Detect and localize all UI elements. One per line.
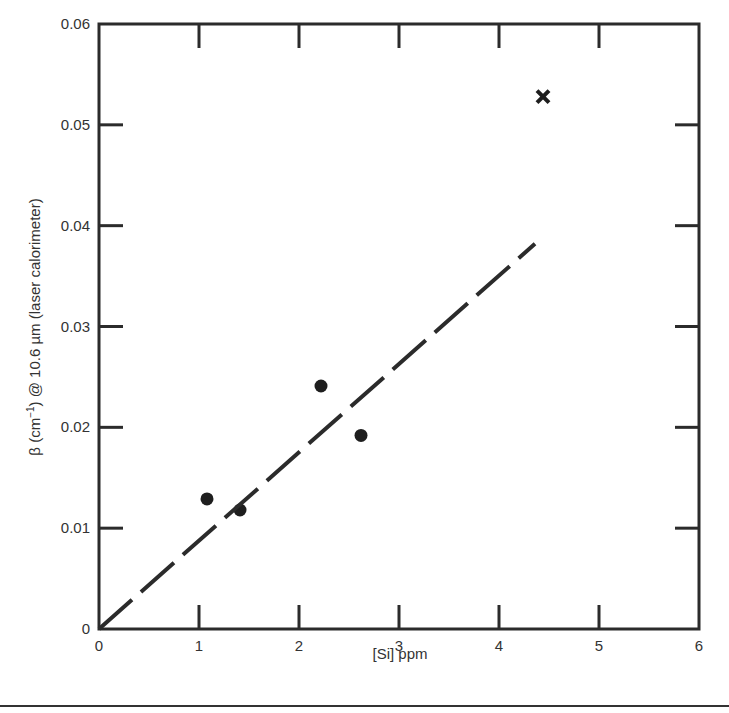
- y-tick-label: 0.05: [61, 116, 90, 133]
- x-tick-label: 2: [295, 637, 303, 654]
- x-axis-label: [Si] ppm: [372, 645, 427, 662]
- x-tick-label: 1: [195, 637, 203, 654]
- x-tick-label: 0: [95, 637, 103, 654]
- y-tick-label: 0.03: [61, 318, 90, 335]
- y-tick-label: 0.01: [61, 519, 90, 536]
- x-axis-ticks: 0123456: [95, 24, 703, 654]
- y-tick-label: 0.04: [61, 217, 90, 234]
- y-tick-label: 0.06: [61, 15, 90, 32]
- x-tick-label: 5: [595, 637, 603, 654]
- plot-frame: [99, 24, 699, 629]
- y-tick-label: 0: [82, 620, 90, 637]
- outlier-x-marker: [537, 91, 549, 103]
- y-axis-ticks: 00.010.020.030.040.050.06: [61, 15, 699, 637]
- data-point: [315, 379, 328, 392]
- data-point: [201, 492, 214, 505]
- y-axis-label: β (cm−1) @ 10.6 µm (laser calorimeter): [25, 198, 43, 455]
- data-point: [355, 429, 368, 442]
- x-tick-label: 4: [495, 637, 503, 654]
- scatter-chart: 0123456 00.010.020.030.040.050.06 [Si] p…: [0, 0, 729, 713]
- y-tick-label: 0.02: [61, 418, 90, 435]
- plot-area: [99, 24, 699, 629]
- fit-line: [99, 244, 535, 629]
- x-tick-label: 6: [695, 637, 703, 654]
